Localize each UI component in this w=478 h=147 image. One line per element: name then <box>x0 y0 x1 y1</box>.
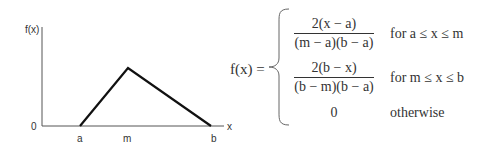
pdf-formula: f(x) = 2(x − a) (m − a)(b − a) for a ≤ x… <box>230 0 478 147</box>
case-3-value: 0 <box>294 105 374 121</box>
tick-a: a <box>77 133 83 144</box>
case-2-numerator: 2(b − x) <box>294 60 374 77</box>
triangular-pdf-plot: f(x) 0 x a m b <box>0 0 240 147</box>
case-1: 2(x − a) (m − a)(b − a) for a ≤ x ≤ m <box>294 16 474 56</box>
formula-lhs: f(x) = <box>230 61 265 78</box>
y-axis-label: f(x) <box>25 24 39 35</box>
case-1-condition: for a ≤ x ≤ m <box>390 26 463 42</box>
tick-m: m <box>123 133 131 144</box>
case-1-numerator: 2(x − a) <box>294 16 374 33</box>
case-2-denominator: (b − m)(b − a) <box>294 77 374 95</box>
case-3-condition: otherwise <box>390 105 444 121</box>
left-brace <box>267 8 291 126</box>
tick-b: b <box>211 133 217 144</box>
case-2: 2(b − x) (b − m)(b − a) for m ≤ x ≤ b <box>294 60 474 100</box>
case-3: 0 otherwise <box>294 105 474 145</box>
case-1-denominator: (m − a)(b − a) <box>294 33 374 51</box>
pdf-curve <box>80 68 211 126</box>
origin-label: 0 <box>31 121 37 132</box>
case-2-condition: for m ≤ x ≤ b <box>390 70 464 86</box>
